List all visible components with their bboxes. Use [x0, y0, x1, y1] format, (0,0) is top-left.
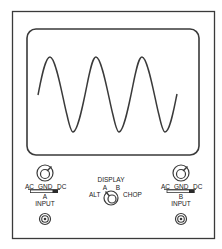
- channel-a-label: A: [43, 193, 48, 200]
- channel-b-ac-label: AC: [161, 183, 170, 190]
- display-controls: DISPLAY A B ALT CHOP: [89, 176, 142, 205]
- channel-a-controls: AC GND DC A INPUT: [25, 165, 67, 225]
- channel-b-input-label: INPUT: [171, 200, 191, 207]
- channel-a-input-label: INPUT: [35, 200, 55, 207]
- channel-b-controls: AC GND DC B INPUT: [161, 165, 203, 225]
- channel-a-bnc-connector[interactable]: [40, 214, 51, 225]
- display-option-chop: CHOP: [123, 191, 142, 198]
- channel-b-dc-label: DC: [193, 183, 203, 190]
- channel-b-knob[interactable]: [173, 165, 189, 181]
- display-option-alt: ALT: [89, 191, 100, 198]
- channel-b-bnc-connector[interactable]: [176, 214, 187, 225]
- channel-a-ac-label: AC: [25, 183, 34, 190]
- channel-a-knob[interactable]: [37, 165, 53, 181]
- display-option-b: B: [116, 184, 120, 191]
- channel-b-switch-slider[interactable]: [189, 190, 195, 193]
- channel-a-switch-slider[interactable]: [53, 190, 59, 193]
- channel-a-dc-label: DC: [57, 183, 67, 190]
- channel-a-gnd-label: GND: [38, 183, 53, 190]
- oscilloscope-diagram: AC GND DC A INPUT DISPLAY A B ALT CHOP: [0, 0, 222, 249]
- channel-b-gnd-label: GND: [174, 183, 189, 190]
- display-option-a: A: [103, 184, 108, 191]
- screen: [27, 29, 199, 155]
- display-selector-knob[interactable]: [104, 191, 118, 205]
- display-title: DISPLAY: [98, 176, 126, 183]
- sine-waveform: [38, 57, 177, 132]
- channel-b-label: B: [179, 193, 183, 200]
